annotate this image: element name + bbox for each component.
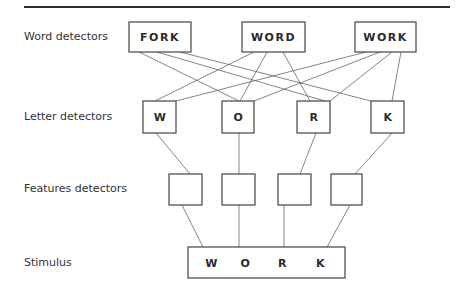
stimulus-letter-k: K bbox=[316, 257, 326, 270]
word-detector-work: WORK bbox=[355, 22, 416, 52]
word-detector-label: WORK bbox=[363, 31, 407, 44]
feature-detector-2 bbox=[222, 174, 255, 205]
link-fork-o bbox=[139, 52, 239, 101]
word-detector-label: FORK bbox=[140, 31, 180, 44]
stimulus-letter-o: O bbox=[241, 257, 252, 270]
stimulus-box: WORK bbox=[188, 247, 345, 278]
link-feature-1-stimulus-w bbox=[182, 205, 203, 247]
link-letter-r-feature-3 bbox=[300, 133, 316, 174]
letter-detector-label: W bbox=[154, 111, 168, 124]
letter-detector-label: K bbox=[383, 111, 393, 124]
letter-detector-label: R bbox=[310, 111, 320, 124]
stimulus-letter-r: R bbox=[278, 257, 288, 270]
letter-detector-k: K bbox=[371, 101, 404, 133]
detector-diagram: FORKWORDWORKWORKWORK bbox=[0, 0, 464, 300]
feature-detector-3 bbox=[278, 174, 311, 205]
letter-detector-label: O bbox=[234, 111, 245, 124]
feature-detector-4 bbox=[331, 174, 362, 205]
link-word-r bbox=[283, 52, 310, 101]
link-feature-4-stimulus-k bbox=[327, 205, 350, 247]
stimulus-letter-w: W bbox=[205, 257, 219, 270]
link-letter-k-feature-4 bbox=[355, 133, 392, 174]
word-detector-label: WORD bbox=[251, 31, 296, 44]
link-fork-r bbox=[157, 52, 325, 101]
word-detector-fork: FORK bbox=[129, 22, 191, 52]
link-work-k bbox=[392, 52, 401, 101]
link-letter-w-feature-1 bbox=[156, 133, 190, 174]
word-detector-word: WORD bbox=[242, 22, 305, 52]
letter-detector-w: W bbox=[143, 101, 176, 133]
link-fork-k bbox=[180, 52, 371, 101]
feature-detector-1 bbox=[169, 174, 202, 205]
letter-detector-r: R bbox=[297, 101, 330, 133]
link-word-o bbox=[240, 52, 267, 101]
letter-detector-o: O bbox=[222, 101, 254, 133]
